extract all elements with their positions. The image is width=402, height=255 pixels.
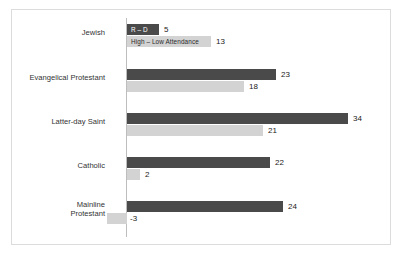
bar-catholic-attendance	[127, 169, 140, 180]
bar-latter-day-saint-attendance	[127, 125, 263, 136]
value-label-catholic-r-d: 22	[275, 157, 284, 168]
value-label-jewish-attendance: 13	[216, 36, 225, 47]
bar-mainline-protestant-r-d	[127, 201, 283, 212]
value-label-mainline-protestant-r-d: 24	[288, 201, 297, 212]
legend-label-high-low-attendance: High – Low Attendance	[131, 36, 199, 47]
chart-frame: Jewish R – D 5 High – Low Attendance 13 …	[11, 9, 391, 245]
category-label-catholic: Catholic	[0, 162, 105, 171]
value-label-evangelical-protestant-r-d: 23	[281, 69, 290, 80]
category-label-evangelical-protestant: Evangelical Protestant	[0, 74, 105, 83]
bar-latter-day-saint-r-d	[127, 113, 348, 124]
category-label-mainline-protestant: Mainline Protestant	[0, 201, 105, 218]
bar-jewish-attendance: High – Low Attendance	[127, 36, 211, 47]
bar-evangelical-protestant-attendance	[127, 81, 244, 92]
value-label-latter-day-saint-attendance: 21	[268, 125, 277, 136]
value-label-mainline-protestant-attendance: -3	[130, 213, 137, 224]
value-label-latter-day-saint-r-d: 34	[353, 113, 362, 124]
plot-area: Jewish R – D 5 High – Low Attendance 13 …	[12, 10, 390, 244]
bar-evangelical-protestant-r-d	[127, 69, 276, 80]
category-label-jewish: Jewish	[0, 29, 105, 38]
category-label-latter-day-saint: Latter-day Saint	[0, 118, 105, 127]
value-label-catholic-attendance: 2	[145, 169, 149, 180]
bar-mainline-protestant-attendance	[107, 213, 127, 224]
bar-catholic-r-d	[127, 157, 270, 168]
legend-label-r-d: R – D	[131, 24, 148, 35]
value-label-jewish-r-d: 5	[164, 24, 168, 35]
bar-jewish-r-d: R – D	[127, 24, 159, 35]
value-label-evangelical-protestant-attendance: 18	[249, 81, 258, 92]
